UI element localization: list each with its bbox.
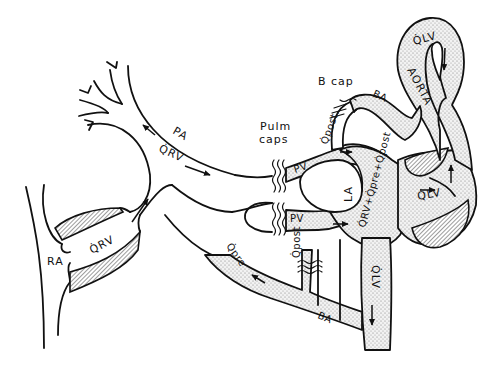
descending-aorta — [361, 238, 391, 350]
label-qrv-lower: Q̇RV — [87, 233, 116, 257]
label-pulm-caps-1: Pulm — [260, 120, 291, 133]
label-la: LA — [342, 186, 355, 202]
label-qrv-upper: Q̇RV — [157, 142, 186, 165]
pulmonary-artery — [79, 62, 235, 215]
bronchial-artery-lower — [205, 240, 362, 330]
label-pulm-caps-2: caps — [259, 133, 289, 146]
pulmonary-trunk-to-caps — [165, 175, 272, 262]
label-b-cap: B cap — [318, 75, 354, 88]
label-ra: RA — [47, 255, 64, 268]
label-pv-lower: PV — [290, 213, 304, 224]
label-qlv-descending: Q̇LV — [369, 265, 382, 289]
label-qpost-lower: Q̇post — [290, 226, 302, 258]
label-pa: PA — [171, 124, 191, 143]
circulation-diagram: PA Q̇RV Q̇RV RA Pulm caps PV PV B cap BA… — [0, 0, 490, 370]
pulmonary-capillaries — [273, 160, 286, 235]
